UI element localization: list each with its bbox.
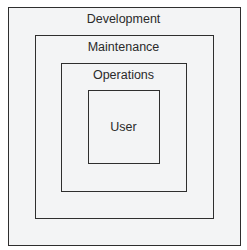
operations-label: Operations bbox=[0, 68, 247, 82]
user-label: User bbox=[0, 120, 247, 134]
development-label: Development bbox=[0, 12, 247, 26]
maintenance-label: Maintenance bbox=[0, 40, 247, 54]
